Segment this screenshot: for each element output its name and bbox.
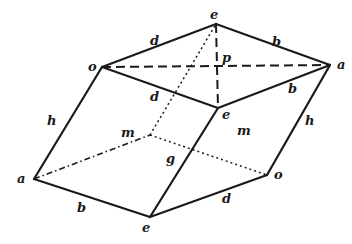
label-a-bottom: a [17,171,25,186]
hidden-edge-m-e-top [150,24,216,135]
label-d-mid: d [150,89,159,104]
parallelepiped-diagram: e o a d b p d b e h h m m g a b e d o [0,0,352,244]
label-g: g [166,151,175,166]
label-b-mid: b [288,81,297,96]
edge-a-o-right [267,65,330,175]
edge-e-front-a [218,65,330,108]
hidden-edge-a-m [34,135,150,179]
label-b-bottom: b [77,200,86,215]
label-p: p [222,50,231,65]
label-d-bottom: d [222,191,231,206]
label-e-top: e [210,7,218,22]
label-e-front: e [222,107,230,122]
label-h-right: h [305,113,314,128]
diagonal-o-a [102,65,330,67]
label-a-right: a [337,57,345,72]
label-b-top: b [272,34,281,49]
label-h-left: h [47,113,56,128]
label-m-face: m [237,123,251,138]
label-e-bottom: e [142,220,150,235]
edge-e-front-e-bottom [150,108,218,217]
label-d-top: d [150,33,159,48]
label-o-bottom: o [274,167,283,182]
label-o-left: o [88,59,97,74]
edge-a-e-bottom [34,179,150,217]
edge-o-e-front [102,67,218,108]
label-m-hidden: m [121,125,135,140]
edge-o-a-left [34,67,102,179]
edge-e-o-bottom [150,175,267,217]
